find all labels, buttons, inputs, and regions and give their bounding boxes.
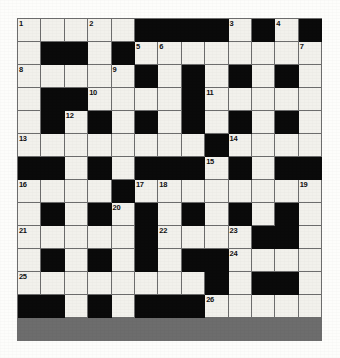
crossword-cell-open[interactable] <box>299 272 322 295</box>
crossword-cell-open[interactable] <box>88 180 111 203</box>
crossword-cell-open[interactable] <box>88 272 111 295</box>
crossword-cell-open[interactable] <box>252 65 275 88</box>
crossword-cell-open[interactable] <box>275 249 298 272</box>
crossword-cell-open[interactable]: 7 <box>299 42 322 65</box>
crossword-cell-open[interactable] <box>275 42 298 65</box>
crossword-cell-open[interactable] <box>41 19 64 42</box>
crossword-cell-open[interactable] <box>18 42 41 65</box>
crossword-cell-open[interactable] <box>252 42 275 65</box>
crossword-cell-open[interactable]: 18 <box>158 180 181 203</box>
crossword-cell-open[interactable]: 22 <box>158 226 181 249</box>
crossword-cell-open[interactable] <box>182 134 205 157</box>
crossword-cell-open[interactable] <box>18 249 41 272</box>
crossword-cell-open[interactable] <box>65 65 88 88</box>
crossword-cell-open[interactable]: 16 <box>18 180 41 203</box>
crossword-cell-open[interactable] <box>112 88 135 111</box>
crossword-cell-open[interactable]: 20 <box>112 203 135 226</box>
crossword-cell-open[interactable] <box>88 226 111 249</box>
crossword-cell-open[interactable] <box>65 134 88 157</box>
crossword-cell-open[interactable] <box>65 157 88 180</box>
crossword-cell-open[interactable] <box>182 272 205 295</box>
crossword-cell-open[interactable] <box>205 111 228 134</box>
crossword-cell-open[interactable]: 12 <box>65 111 88 134</box>
crossword-cell-open[interactable] <box>158 88 181 111</box>
crossword-cell-open[interactable] <box>65 295 88 318</box>
crossword-cell-open[interactable]: 26 <box>205 295 228 318</box>
crossword-cell-open[interactable] <box>112 249 135 272</box>
crossword-cell-open[interactable] <box>299 134 322 157</box>
crossword-cell-open[interactable] <box>299 65 322 88</box>
crossword-cell-open[interactable] <box>112 226 135 249</box>
crossword-cell-open[interactable] <box>41 180 64 203</box>
crossword-cell-open[interactable] <box>252 295 275 318</box>
crossword-cell-open[interactable] <box>205 180 228 203</box>
crossword-cell-open[interactable] <box>299 295 322 318</box>
crossword-cell-open[interactable] <box>65 226 88 249</box>
crossword-cell-open[interactable] <box>299 249 322 272</box>
crossword-cell-open[interactable] <box>158 272 181 295</box>
crossword-cell-open[interactable]: 4 <box>275 19 298 42</box>
crossword-cell-open[interactable] <box>158 134 181 157</box>
crossword-cell-open[interactable] <box>41 65 64 88</box>
crossword-cell-open[interactable] <box>112 111 135 134</box>
crossword-cell-open[interactable] <box>299 111 322 134</box>
crossword-cell-open[interactable] <box>252 134 275 157</box>
crossword-cell-open[interactable] <box>88 65 111 88</box>
crossword-cell-open[interactable]: 17 <box>135 180 158 203</box>
crossword-cell-open[interactable]: 10 <box>88 88 111 111</box>
crossword-cell-open[interactable]: 23 <box>229 226 252 249</box>
crossword-cell-open[interactable] <box>41 226 64 249</box>
crossword-cell-open[interactable] <box>112 157 135 180</box>
crossword-cell-open[interactable] <box>229 42 252 65</box>
crossword-cell-open[interactable] <box>158 249 181 272</box>
crossword-cell-open[interactable] <box>275 134 298 157</box>
crossword-cell-open[interactable] <box>112 134 135 157</box>
crossword-cell-open[interactable]: 11 <box>205 88 228 111</box>
crossword-cell-open[interactable] <box>182 42 205 65</box>
crossword-cell-open[interactable] <box>135 88 158 111</box>
crossword-cell-open[interactable]: 9 <box>112 65 135 88</box>
crossword-cell-open[interactable] <box>158 65 181 88</box>
crossword-cell-open[interactable] <box>252 157 275 180</box>
crossword-cell-open[interactable] <box>229 180 252 203</box>
crossword-cell-open[interactable] <box>252 249 275 272</box>
crossword-cell-open[interactable] <box>65 180 88 203</box>
crossword-cell-open[interactable]: 3 <box>229 19 252 42</box>
crossword-cell-open[interactable] <box>18 88 41 111</box>
crossword-cell-open[interactable]: 6 <box>158 42 181 65</box>
crossword-cell-open[interactable] <box>252 88 275 111</box>
crossword-grid[interactable]: 1234567891011121314151617181920212223242… <box>17 18 322 341</box>
crossword-cell-open[interactable] <box>135 134 158 157</box>
crossword-cell-open[interactable]: 14 <box>229 134 252 157</box>
crossword-cell-open[interactable] <box>299 203 322 226</box>
crossword-cell-open[interactable] <box>205 42 228 65</box>
crossword-cell-open[interactable]: 21 <box>18 226 41 249</box>
crossword-cell-open[interactable] <box>112 272 135 295</box>
crossword-cell-open[interactable]: 25 <box>18 272 41 295</box>
crossword-cell-open[interactable] <box>182 180 205 203</box>
crossword-cell-open[interactable]: 13 <box>18 134 41 157</box>
crossword-cell-open[interactable] <box>158 203 181 226</box>
crossword-cell-open[interactable] <box>182 226 205 249</box>
crossword-cell-open[interactable] <box>88 42 111 65</box>
crossword-cell-open[interactable] <box>299 226 322 249</box>
crossword-cell-open[interactable] <box>252 203 275 226</box>
crossword-cell-open[interactable] <box>18 111 41 134</box>
crossword-cell-open[interactable] <box>275 180 298 203</box>
crossword-cell-open[interactable]: 2 <box>88 19 111 42</box>
crossword-cell-open[interactable] <box>41 134 64 157</box>
crossword-cell-open[interactable] <box>229 295 252 318</box>
crossword-cell-open[interactable] <box>205 226 228 249</box>
crossword-cell-open[interactable] <box>158 111 181 134</box>
crossword-cell-open[interactable] <box>275 295 298 318</box>
crossword-cell-open[interactable]: 8 <box>18 65 41 88</box>
crossword-cell-open[interactable] <box>205 65 228 88</box>
crossword-cell-open[interactable] <box>299 88 322 111</box>
crossword-cell-open[interactable] <box>88 134 111 157</box>
crossword-cell-open[interactable] <box>229 272 252 295</box>
crossword-cell-open[interactable] <box>252 180 275 203</box>
crossword-cell-open[interactable] <box>275 88 298 111</box>
crossword-cell-open[interactable] <box>65 19 88 42</box>
crossword-cell-open[interactable] <box>65 249 88 272</box>
crossword-cell-open[interactable] <box>65 272 88 295</box>
